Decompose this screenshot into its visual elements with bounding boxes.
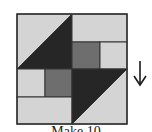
arrow-down-icon xyxy=(134,61,146,85)
top-right-light-small-rect xyxy=(100,42,127,69)
caption: Make 10 xyxy=(0,124,152,132)
quilt-block xyxy=(17,14,127,124)
top-right-light-rect xyxy=(72,14,127,42)
bottom-left-light-rect xyxy=(17,97,72,124)
bottom-left-medium-square xyxy=(45,69,72,97)
bottom-left-light-small-rect xyxy=(17,69,45,97)
quilt-block-diagram xyxy=(0,0,152,132)
top-right-medium-square xyxy=(72,42,100,69)
